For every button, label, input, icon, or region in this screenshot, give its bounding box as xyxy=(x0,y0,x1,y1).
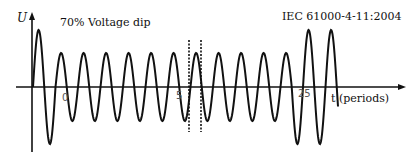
x-axis-arrow-icon xyxy=(398,84,406,90)
dip-title: 70% Voltage dip xyxy=(60,16,151,29)
y-axis-arrow-icon xyxy=(29,12,35,20)
standard-label: IEC 61000-4-11:2004 xyxy=(282,10,401,23)
tick-label-0: 0 xyxy=(62,92,68,103)
y-axis-label: U xyxy=(17,11,27,25)
tick-label-25: 25 xyxy=(298,88,311,99)
tick-label-5: 5 xyxy=(176,90,182,101)
x-axis-label: t (periods) xyxy=(331,92,389,105)
